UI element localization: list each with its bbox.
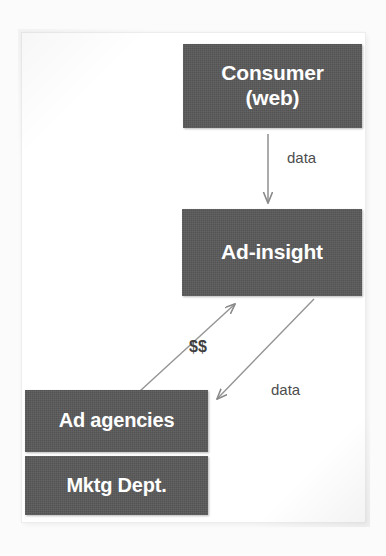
node-mktg-dept[interactable]: Mktg Dept. [25,456,208,515]
diagram-canvas: Consumer (web) Ad-insight Ad agencies Mk… [0,0,386,556]
node-consumer-label-line1: Consumer [221,61,323,84]
node-consumer-label: Consumer (web) [221,61,323,111]
node-consumer-label-line2: (web) [246,86,300,109]
edge-label-data-consumer-to-adinsight: data [287,149,316,166]
node-ad-insight-label: Ad-insight [221,240,323,265]
node-ad-agencies-label: Ad agencies [59,409,175,433]
node-mktg-dept-label: Mktg Dept. [66,474,166,498]
node-ad-insight[interactable]: Ad-insight [182,209,362,296]
edge-label-money-adagencies-to-adinsight: $$ [189,338,207,356]
edge-label-data-adinsight-to-adagencies: data [271,381,300,398]
node-consumer[interactable]: Consumer (web) [183,44,362,128]
node-ad-agencies[interactable]: Ad agencies [25,390,208,452]
